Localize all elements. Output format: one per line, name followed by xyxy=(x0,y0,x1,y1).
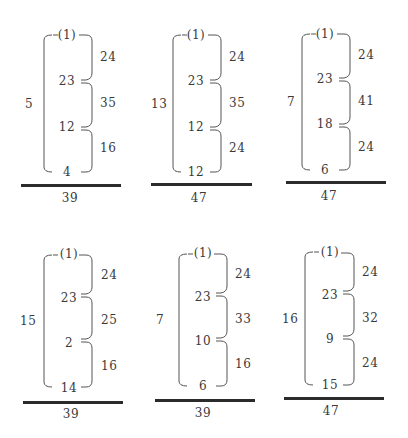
total-label: 39 xyxy=(63,407,79,421)
outer-label: 5 xyxy=(25,97,33,111)
diagram-panel-1: (1) 23 12 4 24 35 16 5 39 xyxy=(0,0,130,190)
total-rule xyxy=(284,397,384,400)
total-rule xyxy=(155,399,255,402)
total-label: 39 xyxy=(195,406,211,420)
node-label: 12 xyxy=(188,165,204,179)
total-rule xyxy=(23,401,123,404)
gap-label: 16 xyxy=(235,357,251,371)
total-label: 47 xyxy=(323,404,339,418)
node-label: 23 xyxy=(59,74,75,88)
total-rule xyxy=(21,184,121,187)
total-label: 47 xyxy=(191,191,207,205)
node-label: (1) xyxy=(187,28,206,42)
diagram-panel-3: (1) 23 18 6 24 41 24 7 47 xyxy=(266,0,396,190)
node-label: (1) xyxy=(194,246,213,260)
node-label: 14 xyxy=(61,381,77,395)
gap-label: 24 xyxy=(362,356,378,370)
node-label: 18 xyxy=(317,117,333,131)
outer-label: 7 xyxy=(156,313,164,327)
node-label: 4 xyxy=(63,165,71,179)
diagram-panel-6: (1) 23 9 15 24 32 24 16 47 xyxy=(266,240,396,430)
gap-label: 41 xyxy=(358,94,374,108)
node-label: 23 xyxy=(322,288,338,302)
gap-label: 24 xyxy=(229,141,245,155)
gap-label: 35 xyxy=(229,96,245,110)
node-label: 23 xyxy=(188,74,204,88)
node-label: (1) xyxy=(58,28,77,42)
gap-label: 24 xyxy=(100,50,116,64)
gap-label: 24 xyxy=(358,140,374,154)
node-label: (1) xyxy=(316,27,335,41)
total-rule xyxy=(151,183,252,186)
gap-label: 24 xyxy=(358,48,374,62)
node-label: 9 xyxy=(326,332,334,346)
diagram-panel-5: (1) 23 10 6 24 33 16 7 39 xyxy=(133,240,263,430)
total-rule xyxy=(286,181,386,184)
gap-label: 16 xyxy=(101,359,117,373)
total-label: 47 xyxy=(321,189,337,203)
gap-label: 33 xyxy=(235,312,251,326)
node-label: 15 xyxy=(322,378,338,392)
node-label: 12 xyxy=(188,120,204,134)
node-label: 6 xyxy=(321,163,329,177)
gap-label: 25 xyxy=(101,313,117,327)
gap-label: 24 xyxy=(362,265,378,279)
node-label: 10 xyxy=(195,334,211,348)
total-label: 39 xyxy=(62,191,78,205)
node-label: 6 xyxy=(199,379,207,393)
gap-label: 24 xyxy=(229,50,245,64)
gap-label: 24 xyxy=(101,268,117,282)
node-label: 2 xyxy=(65,336,73,350)
gap-label: 32 xyxy=(362,311,378,325)
node-label: (1) xyxy=(321,245,340,259)
diagram-panel-2: (1) 23 12 12 24 35 24 13 47 xyxy=(133,0,263,190)
outer-label: 16 xyxy=(282,312,298,326)
node-label: 23 xyxy=(317,72,333,86)
outer-label: 13 xyxy=(151,97,167,111)
node-label: 12 xyxy=(59,120,75,134)
gap-label: 24 xyxy=(235,267,251,281)
node-label: 23 xyxy=(61,291,77,305)
node-label: 23 xyxy=(195,290,211,304)
diagram-panel-4: (1) 23 2 14 24 25 16 15 39 xyxy=(0,240,130,430)
outer-label: 15 xyxy=(20,314,36,328)
gap-label: 16 xyxy=(100,141,116,155)
node-label: (1) xyxy=(60,247,79,261)
gap-label: 35 xyxy=(100,96,116,110)
outer-label: 7 xyxy=(287,95,295,109)
